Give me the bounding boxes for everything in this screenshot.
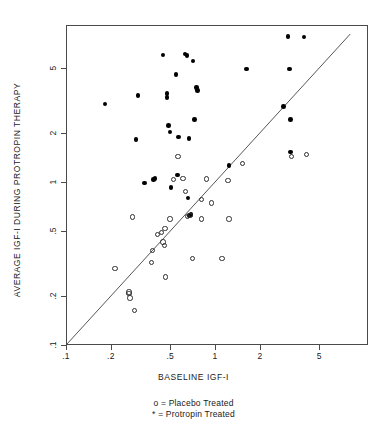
data-point-placebo xyxy=(226,216,231,221)
y-tick-label: 2 xyxy=(48,126,58,140)
identity-reference-line xyxy=(67,26,367,344)
data-point-placebo xyxy=(162,226,167,231)
data-point-placebo xyxy=(204,176,209,181)
data-point-placebo xyxy=(127,295,132,300)
data-point-placebo xyxy=(240,161,245,166)
plot-area xyxy=(67,26,367,344)
x-tick-label: 5 xyxy=(317,351,322,361)
data-point-placebo xyxy=(175,154,180,159)
data-point-placebo xyxy=(209,200,214,205)
data-point-protropin xyxy=(174,72,179,77)
legend-entry-protropin: * = Protropin Treated xyxy=(0,409,387,420)
y-tick-label: .2 xyxy=(48,289,58,303)
x-tick-mark xyxy=(66,345,67,350)
data-point-protropin xyxy=(227,163,232,168)
data-point-protropin xyxy=(288,117,293,122)
data-point-protropin xyxy=(187,136,192,141)
data-point-protropin xyxy=(134,137,139,142)
data-point-protropin xyxy=(176,135,181,140)
x-tick-mark xyxy=(111,345,112,350)
x-axis-title: BASELINE IGF-I xyxy=(0,372,387,382)
scatter-plot-figure: AVERAGE IGF-I DURING PROTROPIN THERAPY .… xyxy=(0,0,387,434)
data-point-placebo xyxy=(219,256,224,261)
y-tick-label: .5 xyxy=(48,224,58,238)
x-tick-label: .2 xyxy=(107,351,115,361)
data-point-placebo xyxy=(199,216,204,221)
data-point-protropin xyxy=(281,104,286,109)
y-axis-title: AVERAGE IGF-I DURING PROTROPIN THERAPY xyxy=(12,65,22,315)
data-point-protropin xyxy=(142,181,147,186)
data-point-placebo xyxy=(126,289,131,294)
data-point-protropin xyxy=(175,173,180,178)
data-point-protropin xyxy=(192,117,197,122)
x-tick-mark xyxy=(170,345,171,350)
data-point-placebo xyxy=(225,178,230,183)
x-tick-mark xyxy=(319,345,320,350)
x-tick-label: .1 xyxy=(62,351,70,361)
data-point-protropin xyxy=(287,67,292,72)
y-tick-label: .1 xyxy=(48,338,58,352)
data-point-protropin xyxy=(166,123,171,128)
data-point-placebo xyxy=(130,214,135,219)
data-point-placebo xyxy=(167,216,172,221)
x-tick-mark xyxy=(215,345,216,350)
data-point-protropin xyxy=(195,88,200,93)
plot-frame xyxy=(66,25,368,345)
legend-entry-placebo: o = Placebo Treated xyxy=(0,398,387,409)
data-point-protropin xyxy=(153,176,158,181)
data-point-protropin xyxy=(169,185,174,190)
x-tick-label: 1 xyxy=(213,351,218,361)
y-tick-label: 1 xyxy=(48,175,58,189)
data-point-protropin xyxy=(244,67,249,72)
x-tick-mark xyxy=(260,345,261,350)
data-point-protropin xyxy=(136,93,141,98)
chart-legend: o = Placebo Treated * = Protropin Treate… xyxy=(0,398,387,420)
data-point-placebo xyxy=(112,266,117,271)
data-point-placebo xyxy=(162,243,167,248)
x-tick-label: .5 xyxy=(166,351,174,361)
y-tick-label: 5 xyxy=(48,61,58,75)
x-tick-label: 2 xyxy=(257,351,262,361)
data-point-placebo xyxy=(180,176,185,181)
